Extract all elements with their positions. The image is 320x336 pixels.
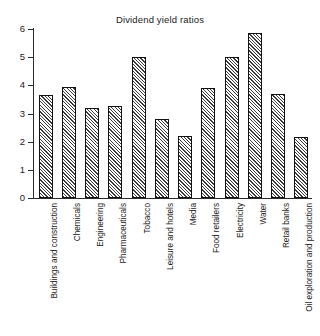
bar xyxy=(294,137,308,198)
y-axis-tick-mark xyxy=(28,142,34,143)
y-axis-tick-label: 0 xyxy=(0,193,25,202)
bar xyxy=(225,57,239,198)
y-axis-tick-label: 5 xyxy=(0,52,25,61)
bar xyxy=(248,33,262,198)
x-axis-tick-label: Electricity xyxy=(236,203,245,238)
x-axis-tick-label: Oil exploration and production xyxy=(305,203,314,312)
y-axis-tick-label: 3 xyxy=(0,109,25,118)
x-axis-tick-label: Pharmaceuticals xyxy=(119,203,128,264)
x-axis-tick-label: Retail banks xyxy=(282,203,291,248)
bar xyxy=(178,136,192,198)
bar xyxy=(62,87,76,198)
bar xyxy=(201,88,215,198)
x-axis-tick-label: Tobacco xyxy=(143,203,152,234)
y-axis-tick-mark xyxy=(28,85,34,86)
y-axis-tick-label: 2 xyxy=(0,137,25,146)
bar xyxy=(108,106,122,198)
x-axis-tick-label: Chemicals xyxy=(73,203,82,241)
x-axis-line xyxy=(33,198,312,199)
y-axis-tick-mark xyxy=(28,114,34,115)
bar xyxy=(39,95,53,198)
y-axis-tick-label: 4 xyxy=(0,80,25,89)
bar-chart: Dividend yield ratios 0123456 Buildings … xyxy=(0,0,320,336)
y-axis-tick-label: 1 xyxy=(0,165,25,174)
bar xyxy=(132,57,146,198)
x-axis-tick-label: Water xyxy=(259,203,268,225)
x-axis-tick-label: Media xyxy=(189,203,198,225)
bar xyxy=(271,94,285,198)
x-axis-tick-label: Leisure and hotels xyxy=(166,203,175,270)
x-axis-tick-label: Food retailers xyxy=(212,203,221,253)
x-axis-tick-label: Engineering xyxy=(96,203,105,247)
bar xyxy=(85,108,99,198)
y-axis-tick-mark xyxy=(28,170,34,171)
y-axis-tick-mark xyxy=(28,57,34,58)
y-axis-tick-mark xyxy=(28,198,34,199)
chart-title: Dividend yield ratios xyxy=(0,14,320,25)
x-axis-tick-label: Buildings and construction xyxy=(50,203,59,299)
bar xyxy=(155,119,169,198)
y-axis-tick-label: 6 xyxy=(0,24,25,33)
y-axis-tick-mark xyxy=(28,29,34,30)
